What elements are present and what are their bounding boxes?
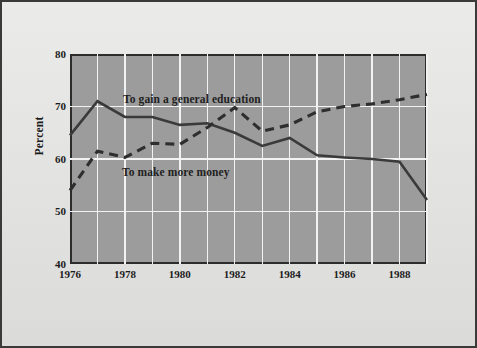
x-tick-label: 1980	[169, 268, 191, 281]
series-label-money: To make more money	[122, 166, 230, 178]
chart-canvas	[70, 54, 427, 264]
y-tick-label: 50	[38, 206, 66, 217]
x-tick-label: 1976	[59, 268, 81, 281]
x-tick-label: 1984	[279, 268, 301, 281]
chart-figure: 4050607080 Percent To gain a general edu…	[0, 0, 477, 348]
x-tick-label: 1982	[224, 268, 246, 281]
plot-wrapper: To gain a general education To make more…	[70, 54, 427, 264]
x-tick-label: 1988	[389, 268, 411, 281]
x-axis-tick-labels: 1976197819801982198419861988	[70, 268, 427, 284]
series-line-education	[70, 101, 427, 200]
y-axis-title: Percent	[33, 91, 45, 181]
x-tick-label: 1986	[334, 268, 356, 281]
series-label-education: To gain a general education	[123, 93, 261, 105]
y-tick-label: 80	[38, 49, 66, 60]
x-tick-label: 1978	[114, 268, 136, 281]
